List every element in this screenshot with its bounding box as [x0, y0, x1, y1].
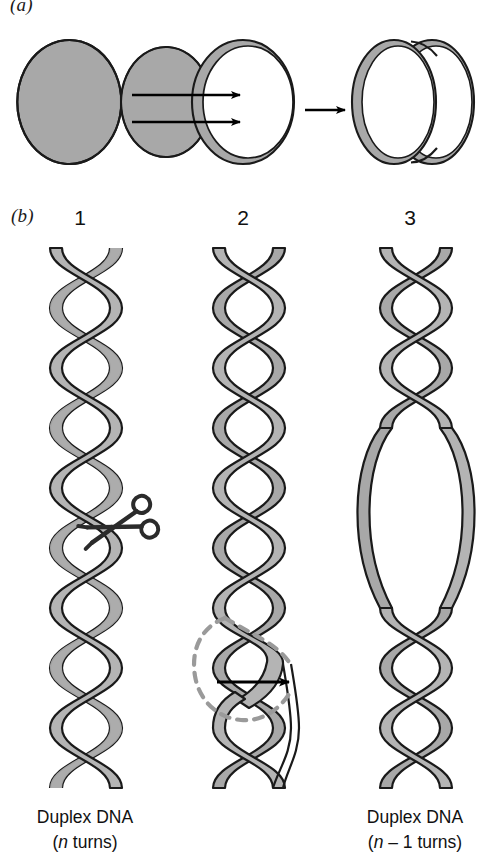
- caption-right-variable: n: [374, 832, 384, 852]
- caption-left-line1: Duplex DNA: [0, 805, 180, 830]
- helix-1-number: 1: [65, 206, 95, 230]
- open-bubble: [357, 428, 474, 608]
- helix-3-strand-front-upper: [380, 248, 452, 428]
- caption-right-rest: – 1 turns): [383, 832, 462, 852]
- caption-left-rest: turns): [68, 832, 118, 852]
- panel-b-letter: (b): [11, 205, 34, 227]
- caption-left: Duplex DNA (n turns): [0, 805, 180, 855]
- open-ring-shape: [17, 40, 211, 164]
- caption-left-variable: n: [58, 832, 68, 852]
- helix-1-strand-front: [50, 248, 122, 788]
- helix-2: [194, 248, 299, 788]
- helix-2-number: 2: [228, 206, 258, 230]
- caption-right: Duplex DNA (n – 1 turns): [320, 805, 481, 855]
- caption-right-line1: Duplex DNA: [320, 805, 481, 830]
- helix-1: [50, 248, 160, 788]
- caption-left-line2: (n turns): [0, 830, 180, 855]
- panel-b-graphic: [0, 240, 481, 800]
- supercoiled-loop-shape: [352, 40, 474, 164]
- panel-a-letter: (a): [10, 0, 33, 16]
- figure-canvas: (a) (b) 1 2 3 Duplex DNA (n turns) Duple…: [0, 0, 481, 865]
- closed-ring-shape: [192, 40, 294, 164]
- caption-right-line2: (n – 1 turns): [320, 830, 481, 855]
- helix-3-number: 3: [395, 206, 425, 230]
- panel-a-graphic: [0, 0, 481, 205]
- helix-3-strand-front-lower: [380, 608, 452, 788]
- helix-3: [357, 248, 474, 788]
